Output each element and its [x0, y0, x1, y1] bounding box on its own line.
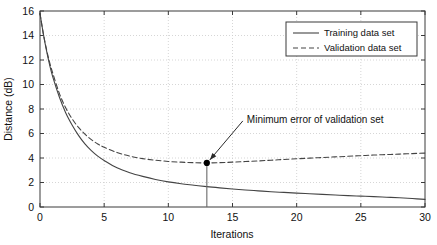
y-tick-label: 16 [22, 5, 34, 17]
y-tick-label: 0 [28, 201, 34, 213]
x-tick-label: 25 [355, 211, 367, 223]
x-tick-label: 15 [227, 211, 239, 223]
y-tick-label: 10 [22, 78, 34, 90]
x-tick-label: 0 [37, 211, 43, 223]
annotation-label: Minimum error of validation set [247, 114, 384, 125]
y-tick-label: 2 [28, 176, 34, 188]
y-tick-label: 6 [28, 127, 34, 139]
minimum-error-marker [204, 160, 210, 166]
line-chart: 051015202530 0246810121416 Minimum error… [0, 0, 437, 245]
legend-label-1[interactable]: Training data set [324, 27, 395, 38]
legend-label-2[interactable]: Validation data set [324, 42, 402, 53]
y-axis-title: Distance (dB) [2, 77, 14, 141]
x-tick-label: 30 [419, 211, 431, 223]
x-tick-label: 10 [162, 211, 174, 223]
y-tick-label: 8 [28, 103, 34, 115]
y-tick-label: 14 [22, 29, 34, 41]
x-tick-label: 5 [101, 211, 107, 223]
y-tick-label: 4 [28, 152, 34, 164]
y-tick-label: 12 [22, 54, 34, 66]
x-axis-title: Iterations [210, 228, 253, 240]
chart-container: 051015202530 0246810121416 Minimum error… [0, 0, 437, 245]
x-tick-label: 20 [291, 211, 303, 223]
chart-legend[interactable]: Training data setValidation data set [286, 22, 417, 56]
